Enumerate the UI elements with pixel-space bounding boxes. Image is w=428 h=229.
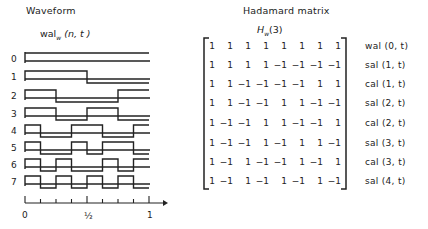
waveform-row-label: 6 bbox=[11, 160, 17, 170]
waveform-row-label: 1 bbox=[11, 72, 17, 82]
matrix-cell: −1 bbox=[325, 98, 341, 108]
matrix-symbol: Hw(3) bbox=[257, 24, 283, 37]
matrix-cell: 1 bbox=[199, 157, 215, 167]
matrix-cell: −1 bbox=[325, 176, 341, 186]
waveform-plot bbox=[0, 0, 428, 229]
matrix-cell: −1 bbox=[217, 138, 233, 148]
matrix-cell: −1 bbox=[217, 176, 233, 186]
matrix-cell: −1 bbox=[235, 79, 251, 89]
matrix-cell: −1 bbox=[253, 98, 269, 108]
matrix-cell: 1 bbox=[217, 60, 233, 70]
matrix-row-function-label: cal (3, t) bbox=[365, 157, 406, 167]
waveform-row-label: 4 bbox=[11, 126, 17, 136]
matrix-cell: −1 bbox=[253, 157, 269, 167]
waveform-row-label: 2 bbox=[11, 91, 17, 101]
matrix-cell: 1 bbox=[271, 98, 287, 108]
matrix-right-bracket bbox=[341, 38, 346, 189]
matrix-cell: −1 bbox=[253, 176, 269, 186]
walsh-waveform-6 bbox=[25, 159, 149, 171]
matrix-cell: 1 bbox=[199, 79, 215, 89]
matrix-row-function-label: cal (2, t) bbox=[365, 118, 406, 128]
waveform-row-label: 0 bbox=[11, 54, 17, 64]
axis-label-zero: 0 bbox=[22, 210, 28, 220]
axis-label-half: ½ bbox=[84, 211, 93, 221]
matrix-cell: −1 bbox=[217, 157, 233, 167]
matrix-cell: 1 bbox=[271, 176, 287, 186]
matrix-cell: −1 bbox=[289, 79, 305, 89]
matrix-cell: −1 bbox=[235, 138, 251, 148]
matrix-cell: −1 bbox=[271, 138, 287, 148]
matrix-cell: 1 bbox=[199, 41, 215, 51]
matrix-cell: 1 bbox=[235, 157, 251, 167]
matrix-cell: 1 bbox=[253, 41, 269, 51]
matrix-cell: −1 bbox=[217, 118, 233, 128]
matrix-cell: −1 bbox=[325, 60, 341, 70]
matrix-cell: −1 bbox=[289, 60, 305, 70]
axis-label-one: 1 bbox=[147, 210, 153, 220]
matrix-cell: 1 bbox=[325, 157, 341, 167]
matrix-title: Hadamard matrix bbox=[243, 5, 330, 16]
matrix-cell: 1 bbox=[253, 118, 269, 128]
matrix-cell: 1 bbox=[271, 41, 287, 51]
matrix-cell: −1 bbox=[307, 60, 323, 70]
matrix-cell: −1 bbox=[271, 60, 287, 70]
matrix-cell: 1 bbox=[199, 176, 215, 186]
axis-arrow-icon bbox=[163, 200, 168, 206]
matrix-cell: −1 bbox=[307, 98, 323, 108]
matrix-row-function-label: sal (1, t) bbox=[365, 60, 406, 70]
matrix-cell: 1 bbox=[289, 98, 305, 108]
matrix-cell: 1 bbox=[217, 41, 233, 51]
matrix-cell: 1 bbox=[235, 176, 251, 186]
matrix-cell: −1 bbox=[271, 79, 287, 89]
matrix-cell: −1 bbox=[235, 98, 251, 108]
waveform-row-label: 5 bbox=[11, 143, 17, 153]
matrix-cell: 1 bbox=[199, 118, 215, 128]
matrix-cell: −1 bbox=[307, 157, 323, 167]
matrix-cell: −1 bbox=[253, 79, 269, 89]
matrix-symbol-args: (3) bbox=[269, 24, 282, 35]
matrix-cell: 1 bbox=[325, 79, 341, 89]
matrix-cell: 1 bbox=[217, 79, 233, 89]
matrix-cell: 1 bbox=[271, 118, 287, 128]
matrix-cell: −1 bbox=[325, 138, 341, 148]
matrix-row-function-label: sal (3, t) bbox=[365, 138, 406, 148]
matrix-row-function-label: sal (4, t) bbox=[365, 176, 406, 186]
matrix-cell: 1 bbox=[217, 98, 233, 108]
waveform-row-label: 7 bbox=[11, 177, 17, 187]
matrix-cell: 1 bbox=[307, 138, 323, 148]
walsh-waveform-7 bbox=[25, 176, 149, 188]
walsh-waveform-3 bbox=[25, 108, 149, 120]
matrix-cell: 1 bbox=[253, 60, 269, 70]
matrix-cell: 1 bbox=[289, 138, 305, 148]
matrix-cell: 1 bbox=[307, 41, 323, 51]
matrix-cell: 1 bbox=[235, 41, 251, 51]
matrix-cell: 1 bbox=[253, 138, 269, 148]
walsh-waveform-4 bbox=[25, 125, 149, 137]
matrix-row-function-label: sal (2, t) bbox=[365, 98, 406, 108]
matrix-cell: 1 bbox=[325, 41, 341, 51]
matrix-cell: −1 bbox=[289, 118, 305, 128]
walsh-waveform-5 bbox=[25, 142, 149, 154]
matrix-cell: −1 bbox=[289, 176, 305, 186]
matrix-cell: 1 bbox=[199, 60, 215, 70]
walsh-waveform-1 bbox=[25, 71, 149, 83]
matrix-cell: 1 bbox=[325, 118, 341, 128]
walsh-waveform-2 bbox=[25, 90, 149, 102]
matrix-cell: 1 bbox=[289, 41, 305, 51]
matrix-cell: 1 bbox=[289, 157, 305, 167]
matrix-row-function-label: cal (1, t) bbox=[365, 79, 406, 89]
matrix-cell: 1 bbox=[199, 98, 215, 108]
matrix-cell: −1 bbox=[235, 118, 251, 128]
matrix-cell: 1 bbox=[307, 79, 323, 89]
matrix-cell: 1 bbox=[235, 60, 251, 70]
waveform-row-label: 3 bbox=[11, 109, 17, 119]
matrix-cell: 1 bbox=[199, 138, 215, 148]
matrix-row-function-label: wal (0, t) bbox=[365, 41, 408, 51]
matrix-cell: −1 bbox=[307, 118, 323, 128]
matrix-cell: 1 bbox=[307, 176, 323, 186]
matrix-cell: −1 bbox=[271, 157, 287, 167]
